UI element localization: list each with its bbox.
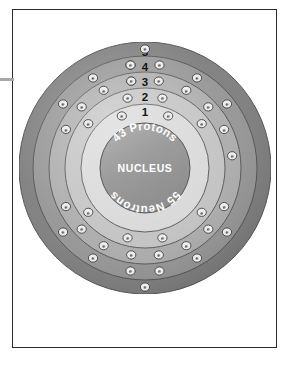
- electron: e: [182, 86, 191, 94]
- electron-symbol: e: [226, 101, 229, 107]
- electron: e: [154, 251, 163, 259]
- electron-symbol: e: [62, 101, 65, 107]
- electron-symbol: e: [161, 235, 164, 241]
- electron-symbol: e: [200, 210, 203, 216]
- electron-symbol: e: [80, 104, 83, 110]
- electron: e: [222, 100, 231, 108]
- shell-number-label-4: 4: [142, 61, 149, 73]
- shell-number-labels: 12345: [142, 46, 149, 118]
- electron-symbol: e: [223, 127, 226, 133]
- electron-symbol: e: [126, 95, 129, 101]
- electron: e: [84, 208, 93, 216]
- electron: e: [197, 208, 206, 216]
- electron: e: [158, 234, 167, 242]
- electron: e: [197, 120, 206, 128]
- electron: e: [154, 77, 163, 85]
- electron: e: [127, 77, 136, 85]
- electron: e: [61, 202, 70, 210]
- electron-symbol: e: [196, 75, 199, 81]
- electron: e: [58, 100, 67, 108]
- electron-symbol: e: [102, 243, 105, 249]
- electron-symbol: e: [185, 243, 188, 249]
- electron-symbol: e: [64, 127, 67, 133]
- atom-diagram: 43 Protons NUCLEUS 55 Neutrons 12345 eee…: [19, 42, 271, 294]
- electron-symbol: e: [92, 75, 95, 81]
- atom-diagram-svg: 43 Protons NUCLEUS 55 Neutrons 12345 eee…: [19, 42, 271, 294]
- electron: e: [204, 225, 213, 233]
- electron-symbol: e: [144, 46, 147, 52]
- electron: e: [158, 94, 167, 102]
- electron: e: [222, 228, 231, 236]
- electron: e: [204, 103, 213, 111]
- electron: e: [228, 152, 237, 160]
- electron-symbol: e: [120, 113, 123, 119]
- nucleus-label: NUCLEUS: [118, 162, 173, 174]
- electron: e: [123, 234, 132, 242]
- shell-number-label-3: 3: [142, 76, 148, 88]
- shell-number-label-2: 2: [142, 91, 148, 103]
- electron-symbol: e: [130, 78, 133, 84]
- electron: e: [192, 254, 201, 262]
- electron: e: [99, 242, 108, 250]
- electron: e: [88, 74, 97, 82]
- electron: e: [127, 251, 136, 259]
- electron-symbol: e: [157, 78, 160, 84]
- electron-symbol: e: [92, 255, 95, 261]
- electron: e: [77, 103, 86, 111]
- electron-symbol: e: [130, 252, 133, 258]
- electron: e: [219, 125, 228, 133]
- electron-symbol: e: [207, 104, 210, 110]
- electron-symbol: e: [185, 88, 188, 94]
- electron: e: [182, 242, 191, 250]
- electron-symbol: e: [144, 284, 147, 290]
- electron: e: [219, 202, 228, 210]
- shell-number-label-1: 1: [142, 106, 149, 118]
- electron-symbol: e: [226, 229, 229, 235]
- electron: e: [155, 61, 164, 69]
- electron: e: [58, 228, 67, 236]
- electron: e: [192, 74, 201, 82]
- electron-symbol: e: [167, 113, 170, 119]
- electron: e: [99, 86, 108, 94]
- electron-symbol: e: [80, 226, 83, 232]
- electron: e: [77, 225, 86, 233]
- electron-symbol: e: [62, 229, 65, 235]
- electron: e: [117, 112, 126, 120]
- screenshot-canvas: 43 Protons NUCLEUS 55 Neutrons 12345 eee…: [0, 0, 293, 365]
- electron-symbol: e: [200, 121, 203, 127]
- electron-symbol: e: [126, 235, 129, 241]
- left-margin-rule: [0, 78, 14, 81]
- electron: e: [126, 267, 135, 275]
- electron-symbol: e: [129, 268, 132, 274]
- electron-symbol: e: [157, 252, 160, 258]
- electron-symbol: e: [223, 204, 226, 210]
- electron-symbol: e: [102, 88, 105, 94]
- electron: e: [61, 125, 70, 133]
- electron: e: [84, 120, 93, 128]
- electron-symbol: e: [207, 226, 210, 232]
- electron: e: [164, 112, 173, 120]
- electron: e: [88, 254, 97, 262]
- electron: e: [123, 94, 132, 102]
- electron-symbol: e: [87, 121, 90, 127]
- electron-symbol: e: [87, 210, 90, 216]
- electron-symbol: e: [196, 255, 199, 261]
- electron: e: [126, 61, 135, 69]
- electron-symbol: e: [231, 153, 234, 159]
- electron-symbol: e: [158, 62, 161, 68]
- electron: e: [155, 267, 164, 275]
- electron-symbol: e: [129, 62, 132, 68]
- electron-symbol: e: [158, 268, 161, 274]
- electron: e: [140, 283, 149, 291]
- electron: e: [140, 45, 149, 53]
- electron-symbol: e: [161, 95, 164, 101]
- electron-symbol: e: [64, 204, 67, 210]
